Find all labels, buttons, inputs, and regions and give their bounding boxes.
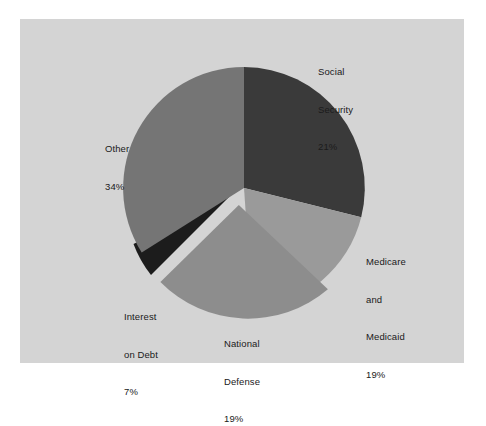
pie-label-interest-on-debt-value: 7%	[124, 386, 158, 399]
pie-label-medicare-line2: and	[366, 294, 406, 307]
pie-label-social-security: Social Security 21%	[318, 41, 353, 179]
pie-label-other: Other 34%	[105, 118, 129, 218]
pie-label-medicare-and-medicaid: Medicare and Medicaid 19%	[366, 231, 406, 406]
pie-label-medicare-line1: Medicare	[366, 256, 406, 269]
pie-label-interest-on-debt: Interest on Debt 7%	[124, 286, 158, 424]
pie-label-interest-on-debt-line2: on Debt	[124, 349, 158, 362]
pie-label-national-defense-line2: Defense	[224, 376, 260, 389]
pie-label-other-line1: Other	[105, 143, 129, 156]
pie-label-social-security-line1: Social	[318, 66, 353, 79]
pie-label-medicare-value: 19%	[366, 369, 406, 382]
pie-label-national-defense-line1: National	[224, 338, 260, 351]
pie-label-social-security-line2: Security	[318, 104, 353, 117]
pie-label-social-security-value: 21%	[318, 141, 353, 154]
pie-label-national-defense: National Defense 19%	[224, 313, 260, 426]
pie-label-interest-on-debt-line1: Interest	[124, 311, 158, 324]
pie-label-national-defense-value: 19%	[224, 413, 260, 426]
pie-label-medicare-line3: Medicaid	[366, 331, 406, 344]
pie-label-other-value: 34%	[105, 181, 129, 194]
